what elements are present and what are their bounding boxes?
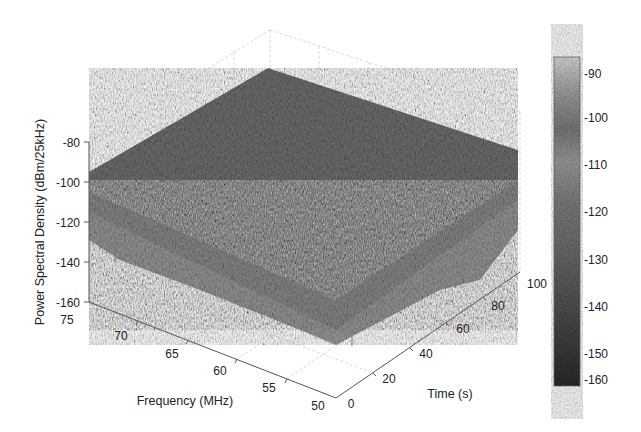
x-axis-label: Frequency (MHz)	[137, 394, 234, 408]
svg-text:100: 100	[527, 277, 547, 291]
svg-text:80: 80	[491, 299, 505, 313]
svg-text:75: 75	[60, 313, 74, 327]
z-axis-ticks: -80 -100 -120 -140 -160	[56, 136, 80, 310]
svg-text:-120: -120	[584, 205, 608, 219]
colorbar: -90 -100 -110 -120 -130 -140 -150 -160	[554, 57, 608, 387]
svg-text:-100: -100	[56, 176, 80, 190]
svg-text:50: 50	[311, 399, 325, 413]
svg-text:-90: -90	[584, 67, 602, 81]
svg-text:-160: -160	[584, 373, 608, 387]
svg-text:20: 20	[382, 372, 396, 386]
svg-text:-140: -140	[56, 256, 80, 270]
y-axis-label: Time (s)	[427, 387, 472, 401]
svg-text:-120: -120	[56, 216, 80, 230]
svg-text:-130: -130	[584, 253, 608, 267]
svg-text:-150: -150	[584, 347, 608, 361]
svg-text:70: 70	[114, 329, 128, 343]
psd-surface-chart: -80 -100 -120 -140 -160 75 70 65 60 55 5…	[0, 0, 641, 432]
svg-text:-80: -80	[63, 136, 81, 150]
svg-text:55: 55	[262, 381, 276, 395]
svg-text:-140: -140	[584, 300, 608, 314]
svg-text:-160: -160	[56, 296, 80, 310]
z-axis-label: Power Spectral Density (dBm/25kHz)	[33, 119, 47, 325]
svg-text:-110: -110	[584, 158, 607, 172]
svg-text:-100: -100	[584, 111, 608, 125]
svg-text:40: 40	[419, 347, 433, 361]
svg-text:0: 0	[348, 397, 355, 411]
svg-text:60: 60	[456, 322, 470, 336]
surface-plot	[89, 68, 518, 346]
svg-text:60: 60	[213, 364, 227, 378]
svg-text:65: 65	[165, 347, 179, 361]
